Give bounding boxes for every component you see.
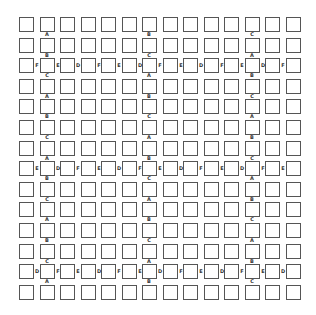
grid-square <box>60 161 75 176</box>
grid-square <box>224 79 239 94</box>
grid-square <box>40 120 55 135</box>
grid-square <box>163 99 178 114</box>
grid-square <box>163 79 178 94</box>
grid-square <box>40 99 55 114</box>
grid-square <box>60 182 75 197</box>
grid-square <box>19 99 34 114</box>
grid-square <box>81 161 96 176</box>
grid-square <box>81 120 96 135</box>
grid-square <box>204 202 219 217</box>
grid-square <box>286 285 301 300</box>
horizontal-edge-label: D <box>115 166 123 171</box>
vertical-edge-label: A <box>145 259 153 264</box>
horizontal-edge-label: E <box>259 269 267 274</box>
horizontal-edge-label: D <box>177 166 185 171</box>
grid-square <box>122 120 137 135</box>
vertical-edge-label: B <box>145 279 153 284</box>
grid-square <box>19 38 34 53</box>
grid-square <box>224 202 239 217</box>
grid-square <box>204 58 219 73</box>
grid-square <box>60 17 75 32</box>
horizontal-edge-label: E <box>33 166 41 171</box>
square-grid-diagram: ABCABCABCABCABCABCABCABCABCABCABCABCABCF… <box>0 0 316 315</box>
grid-square <box>81 202 96 217</box>
grid-square <box>245 161 260 176</box>
vertical-edge-label: B <box>248 259 256 264</box>
grid-square <box>265 202 280 217</box>
grid-square <box>265 182 280 197</box>
grid-square <box>204 120 219 135</box>
grid-square <box>204 99 219 114</box>
grid-square <box>101 17 116 32</box>
grid-square <box>81 285 96 300</box>
horizontal-edge-label: E <box>74 269 82 274</box>
vertical-edge-label: C <box>43 259 51 264</box>
vertical-edge-label: C <box>248 217 256 222</box>
vertical-edge-label: B <box>145 156 153 161</box>
grid-square <box>163 285 178 300</box>
vertical-edge-label: C <box>43 135 51 140</box>
grid-square <box>163 38 178 53</box>
grid-square <box>19 223 34 238</box>
vertical-edge-label: B <box>145 217 153 222</box>
grid-square <box>163 244 178 259</box>
grid-square <box>122 161 137 176</box>
horizontal-edge-label: D <box>33 269 41 274</box>
horizontal-edge-label: E <box>177 63 185 68</box>
grid-square <box>122 182 137 197</box>
grid-square <box>142 38 157 53</box>
grid-square <box>142 223 157 238</box>
grid-square <box>224 285 239 300</box>
grid-square <box>40 79 55 94</box>
horizontal-edge-label: F <box>218 63 226 68</box>
grid-square <box>101 285 116 300</box>
grid-square <box>265 141 280 156</box>
grid-square <box>122 79 137 94</box>
vertical-edge-label: C <box>248 156 256 161</box>
grid-square <box>204 223 219 238</box>
grid-square <box>286 264 301 279</box>
grid-square <box>60 99 75 114</box>
grid-square <box>142 99 157 114</box>
grid-square <box>224 38 239 53</box>
grid-square <box>183 38 198 53</box>
horizontal-edge-label: E <box>238 63 246 68</box>
grid-square <box>142 244 157 259</box>
grid-square <box>286 17 301 32</box>
grid-square <box>224 264 239 279</box>
grid-square <box>204 244 219 259</box>
vertical-edge-label: C <box>248 32 256 37</box>
horizontal-edge-label: F <box>54 269 62 274</box>
grid-square <box>265 17 280 32</box>
vertical-edge-label: B <box>43 53 51 58</box>
grid-square <box>163 161 178 176</box>
grid-square <box>101 99 116 114</box>
grid-square <box>142 182 157 197</box>
vertical-edge-label: C <box>145 114 153 119</box>
grid-square <box>224 141 239 156</box>
grid-square <box>142 161 157 176</box>
horizontal-edge-label: F <box>95 63 103 68</box>
horizontal-edge-label: D <box>95 269 103 274</box>
horizontal-edge-label: D <box>156 269 164 274</box>
vertical-edge-label: C <box>248 279 256 284</box>
grid-square <box>224 99 239 114</box>
grid-square <box>183 223 198 238</box>
grid-square <box>245 141 260 156</box>
grid-square <box>101 182 116 197</box>
vertical-edge-label: A <box>43 217 51 222</box>
grid-square <box>163 182 178 197</box>
grid-square <box>224 223 239 238</box>
vertical-edge-label: A <box>43 94 51 99</box>
grid-square <box>122 223 137 238</box>
grid-square <box>204 182 219 197</box>
grid-square <box>101 244 116 259</box>
grid-square <box>286 182 301 197</box>
grid-square <box>183 99 198 114</box>
vertical-edge-label: A <box>43 32 51 37</box>
grid-square <box>286 202 301 217</box>
grid-square <box>245 120 260 135</box>
horizontal-edge-label: E <box>136 269 144 274</box>
grid-square <box>101 79 116 94</box>
grid-square <box>183 244 198 259</box>
